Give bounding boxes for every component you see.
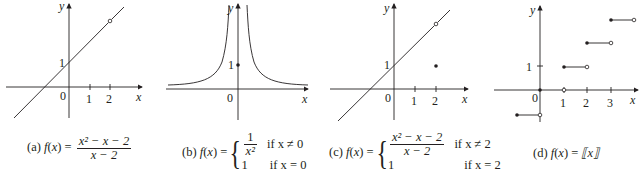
open-point-icon [108,19,112,23]
panel-d: y x 1 0 1 2 3 (d) f(x) = ⟦x⟧ [480,0,643,176]
svg-text:1: 1 [411,94,417,108]
svg-text:1: 1 [384,58,390,72]
svg-text:1: 1 [526,60,532,74]
svg-text:3: 3 [607,96,613,110]
svg-text:0: 0 [385,91,391,105]
svg-text:2: 2 [106,92,112,106]
svg-text:1: 1 [560,96,566,110]
svg-text:x: x [461,92,468,106]
svg-text:0: 0 [532,91,538,105]
svg-text:y: y [529,3,536,17]
svg-text:x: x [629,93,636,107]
panel-a: y x 1 0 1 2 (a) f(x) = x² − x − 2 x − 2 [0,0,160,176]
svg-text:1: 1 [59,56,65,70]
panel-b: y x 1 0 (b) f(x) ={ 1x² if x ≠ 0 1 if x … [160,0,320,176]
line-y-eq-x-plus-1 [338,26,435,122]
svg-text:y: y [383,1,390,15]
filled-point-icon [434,64,438,68]
caption-c: (c) f(x) ={ x² − x − 2x − 2 if x ≠ 2 1 i… [329,132,501,174]
svg-text:y: y [58,0,65,13]
step-0 [538,88,542,92]
graph-c: y x 1 0 1 2 [320,0,480,130]
caption-d: (d) f(x) = ⟦x⟧ [533,145,599,161]
svg-text:0: 0 [60,89,66,103]
svg-text:0: 0 [227,91,233,105]
curve-right [247,5,308,85]
line-y-eq-x-plus-1 [14,23,109,119]
graph-d: y x 1 0 1 2 3 [480,0,643,130]
panel-c: y x 1 0 1 2 (c) f(x) ={ x² − x − 2x − 2 … [320,0,480,176]
graph-a: y x 1 0 1 2 [0,0,160,130]
caption-b: (b) f(x) ={ 1x² if x ≠ 0 1 if x = 0 [182,132,306,174]
svg-text:2: 2 [432,94,438,108]
graph-b: y x 1 0 [160,0,320,130]
curve-left [168,5,229,85]
svg-text:1: 1 [228,58,234,72]
svg-text:x: x [301,92,308,106]
svg-text:1: 1 [86,92,92,106]
caption-a: (a) f(x) = x² − x − 2 x − 2 [27,135,133,162]
filled-point-icon [236,63,240,67]
svg-text:x: x [135,90,142,104]
open-point-icon [434,22,438,26]
svg-text:y: y [227,1,234,15]
svg-text:2: 2 [583,96,589,110]
